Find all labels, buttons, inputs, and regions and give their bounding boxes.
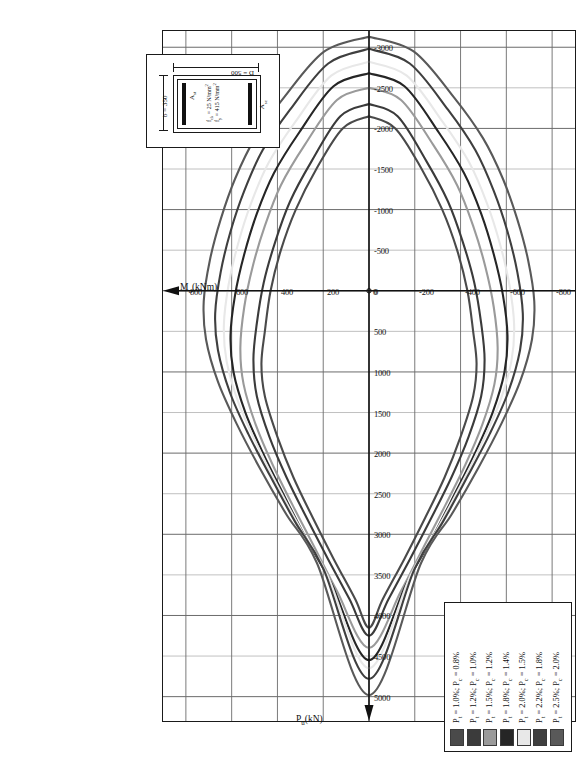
section-outline: Ast Asc fck = 25 N/mm2 fy = 415 N/mm2 [173,75,261,133]
legend-label: Pt = 1.2%; Pc = 1.0% [469,652,480,723]
legend-label: Pt = 2.0%; Pc = 1.5% [518,652,529,723]
y-tick-label: 0 [373,287,377,297]
x-tick-label: -500 [374,246,389,256]
x-tick-label: -3000 [374,43,393,53]
legend-item: Pt = 1.5%; Pc = 1.2% [482,608,499,746]
x-tick-label: 500 [374,327,386,337]
legend-swatch [517,729,531,746]
y-tick-label: -200 [419,287,434,297]
legend-label: Pt = 1.0%; Pc = 0.8% [452,652,463,723]
dim-tick-depth-right [258,63,259,72]
legend-label: Pt = 2.5%; Pc = 2.0% [552,652,563,723]
legend-item: Pt = 1.8%; Pc = 1.4% [499,608,516,746]
legend-item: Pt = 2.2%; Pc = 1.8% [532,608,549,746]
rebar-layer-right [248,83,252,125]
y-axis-title: Mu(kNm) [180,282,217,295]
x-tick-label: 1500 [374,409,390,419]
y-tick-label: 200 [327,287,339,297]
x-tick-label: 4500 [374,652,390,662]
ast-label-left: Ast [188,92,197,100]
legend-swatch [483,729,497,746]
legend-swatch [450,729,464,746]
dim-line-depth [173,67,259,68]
legend-swatch [550,729,564,746]
legend-item: Pt = 1.0%; Pc = 0.8% [449,608,466,746]
y-tick-label: 600 [236,287,248,297]
x-tick-label: -1500 [374,165,393,175]
section-inset: Ast Asc fck = 25 N/mm2 fy = 415 N/mm2 D … [146,54,280,148]
legend-item: Pt = 2.0%; Pc = 1.5% [515,608,532,746]
x-tick-label: -2500 [374,84,393,94]
x-tick-label: -2000 [374,124,393,134]
x-tick-label: -1000 [374,206,393,216]
legend-label: Pt = 1.5%; Pc = 1.2% [485,652,496,723]
dim-tick-width-top [159,75,168,76]
legend-box: Pt = 1.0%; Pc = 0.8%Pt = 1.2%; Pc = 1.0%… [444,602,572,752]
dim-tick-width-bottom [159,130,168,131]
y-tick-label: 400 [281,287,293,297]
legend-label: Pt = 1.8%; Pc = 1.4% [502,652,513,723]
legend-swatch [533,729,547,746]
x-tick-label: 4000 [374,611,390,621]
y-tick-label: -600 [510,287,525,297]
dim-tick-depth-left [173,63,174,72]
x-tick-label: 3500 [374,571,390,581]
legend-swatch [500,729,514,746]
x-tick-label: 2500 [374,490,390,500]
x-tick-label: 2000 [374,449,390,459]
y-tick-label: -400 [465,287,480,297]
rotated-chart-stage: 5000450040003500300025002000150010005000… [144,0,580,768]
ast-label-right: Asc [258,100,267,109]
rebar-layer-left [182,83,186,125]
legend-swatch [467,729,481,746]
legend-item: Pt = 1.2%; Pc = 1.0% [466,608,483,746]
x-tick-label: 3000 [374,530,390,540]
x-tick-label: 1000 [374,368,390,378]
dim-label-width: b = 350 [161,96,169,117]
dim-label-depth: D = 500 [231,69,254,77]
legend-item: Pt = 2.5%; Pc = 2.0% [549,608,566,746]
legend-rows: Pt = 1.0%; Pc = 0.8%Pt = 1.2%; Pc = 1.0%… [449,608,565,746]
legend-label: Pt = 2.2%; Pc = 1.8% [535,652,546,723]
fy-label: fy = 415 N/mm2 [212,83,222,122]
x-axis-title: Pu(kN) [296,714,323,727]
y-tick-label: -800 [556,287,571,297]
x-tick-label: 5000 [374,693,390,703]
